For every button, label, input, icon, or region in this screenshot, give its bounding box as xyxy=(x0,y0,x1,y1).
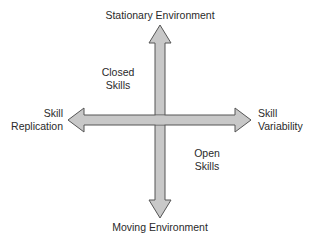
label-closed-skills-line1: Closed xyxy=(98,66,138,79)
label-skill-replication: Skill Replication xyxy=(6,107,63,133)
label-closed-skills-line2: Skills xyxy=(98,79,138,92)
label-open-skills-line2: Skills xyxy=(187,160,227,173)
label-skill-replication-line2: Replication xyxy=(6,120,63,133)
label-closed-skills: Closed Skills xyxy=(98,66,138,92)
label-moving-environment: Moving Environment xyxy=(100,221,220,234)
arrow-crossing xyxy=(156,116,165,125)
label-open-skills-line1: Open xyxy=(187,147,227,160)
label-open-skills: Open Skills xyxy=(187,147,227,173)
label-skill-variability-line2: Variability xyxy=(258,120,310,133)
label-skill-variability-line1: Skill xyxy=(258,107,310,120)
label-skill-variability: Skill Variability xyxy=(258,107,310,133)
label-skill-replication-line1: Skill xyxy=(6,107,63,120)
label-stationary-environment: Stationary Environment xyxy=(100,9,220,22)
